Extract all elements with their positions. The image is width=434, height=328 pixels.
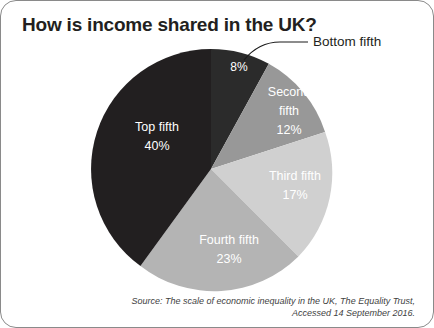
slice-label-third-fifth-name: Third fifth [269,169,321,183]
slice-label-bottom-fifth-value: 8% [230,60,248,74]
slice-label-fourth-fifth-value: 23% [216,252,241,266]
slice-label-third-fifth-value: 17% [282,188,307,202]
pie-chart-svg: Top fifth 40% 8% Second fifth 12% Third … [1,1,434,328]
source-line-1: Source: The scale of economic inequality… [85,295,415,307]
source-note: Source: The scale of economic inequality… [85,295,415,319]
slice-label-fourth-fifth-name: Fourth fifth [199,233,259,247]
pie-chart: Top fifth 40% 8% Second fifth 12% Third … [1,1,434,328]
callout-label-bottom-fifth: Bottom fifth [313,34,381,49]
slice-label-second-fifth-name-1: Second [268,85,310,99]
source-line-2: Accessed 14 September 2016. [85,307,415,319]
slice-label-top-fifth-name: Top fifth [135,120,179,134]
slice-label-second-fifth-name-2: fifth [279,104,299,118]
chart-card: How is income shared in the UK? Top fift… [0,0,434,328]
slice-label-top-fifth-value: 40% [144,139,169,153]
slice-label-second-fifth-value: 12% [276,123,301,137]
